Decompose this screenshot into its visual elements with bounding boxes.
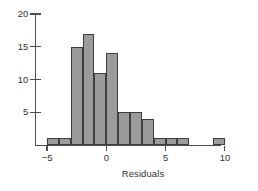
y-tick-10 [30, 79, 36, 80]
y-tick-15 [30, 46, 36, 47]
y-tick-inner-15 [36, 46, 41, 47]
y-tick-5 [30, 112, 36, 113]
x-tick-label-10: 10 [210, 152, 240, 163]
x-axis-title: Residuals [0, 168, 258, 179]
y-tick-inner-10 [36, 79, 41, 80]
y-tick-20 [30, 13, 36, 14]
histogram-bar [142, 119, 154, 145]
x-tick-label-5: 5 [151, 152, 181, 163]
histogram-bar [166, 138, 178, 145]
histogram-bar [94, 73, 106, 145]
plot-area: 5101520 −50510 Residuals [0, 0, 258, 191]
histogram-chart: 5101520 −50510 Residuals [0, 0, 258, 191]
x-tick-0 [106, 146, 107, 151]
x-tick-label-0: 0 [91, 152, 121, 163]
y-tick-label-10: 10 [0, 74, 28, 85]
y-tick-label-15: 15 [0, 41, 28, 52]
y-tick-inner-20 [36, 13, 41, 14]
histogram-bar [154, 138, 166, 145]
x-tick-5 [165, 146, 166, 151]
histogram-bar [83, 34, 95, 145]
histogram-bar [213, 138, 225, 145]
x-tick--5 [46, 146, 47, 151]
histogram-bar [130, 112, 142, 145]
x-tick-10 [224, 146, 225, 151]
y-tick-inner-5 [36, 112, 41, 113]
x-tick-label--5: −5 [32, 152, 62, 163]
histogram-bar [177, 138, 189, 145]
histogram-bar [118, 112, 130, 145]
histogram-bar [47, 138, 59, 145]
histogram-bar [71, 47, 83, 145]
y-tick-label-5: 5 [0, 106, 28, 117]
x-axis-title-text: Residuals [122, 168, 165, 179]
y-tick-label-20: 20 [0, 8, 28, 19]
histogram-bar [59, 138, 71, 145]
histogram-bar [106, 53, 118, 145]
